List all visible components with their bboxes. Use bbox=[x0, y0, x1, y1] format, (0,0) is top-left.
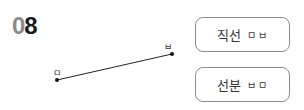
answer-term: 직선 bbox=[217, 25, 241, 44]
point-right-label: ㅂ bbox=[164, 40, 172, 53]
segment-line bbox=[57, 54, 172, 80]
answer-box-segment: 선분 ㅂㅁ bbox=[195, 67, 290, 102]
answer-box-line: 직선 ㅁㅂ bbox=[195, 17, 290, 52]
answer-points: ㅁㅂ bbox=[247, 27, 269, 42]
answer-term: 선분 bbox=[217, 75, 241, 94]
answer-points: ㅂㅁ bbox=[247, 77, 269, 92]
point-left-label: ㅁ bbox=[53, 66, 61, 79]
